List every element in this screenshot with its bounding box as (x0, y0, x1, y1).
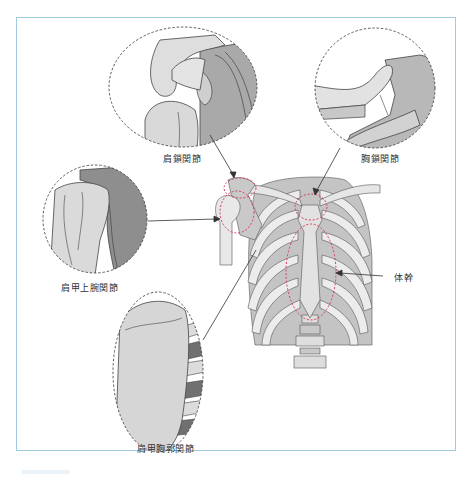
inset-acromioclavicular (100, 20, 270, 160)
inset-sternoclavicular (310, 25, 440, 155)
thorax-skeleton (216, 177, 380, 368)
label-sternoclavicular-joint: 胸鎖関節 (361, 152, 399, 165)
label-acromioclavicular-joint: 肩鎖関節 (163, 152, 201, 165)
inset-glenohumeral (40, 160, 150, 280)
inset-scapulothoracic (110, 290, 210, 455)
shoulder-complex-diagram (0, 0, 473, 483)
footer-mark (22, 470, 70, 474)
label-trunk: 体幹 (394, 271, 413, 284)
label-scapulothoracic-joint: 肩甲胸郭関節 (137, 442, 194, 455)
label-glenohumeral-joint: 肩甲上腕関節 (61, 281, 118, 294)
